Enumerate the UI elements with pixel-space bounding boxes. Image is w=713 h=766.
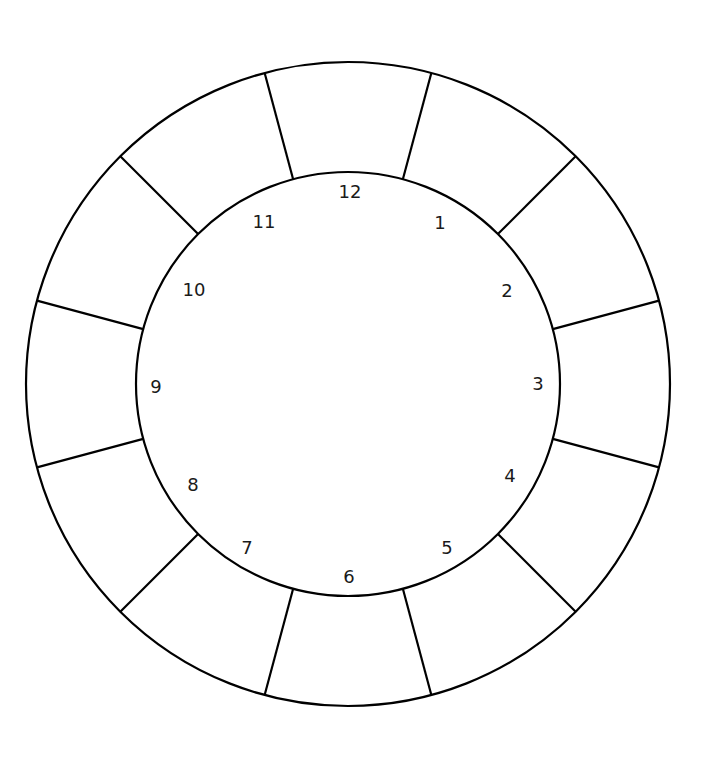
hour-label-10: 10 bbox=[183, 279, 206, 300]
hour-label-6: 6 bbox=[343, 566, 354, 587]
spoke-10-11 bbox=[120, 156, 198, 234]
spoke-12-1 bbox=[403, 73, 431, 179]
spoke-7-8 bbox=[120, 534, 198, 612]
spoke-8-9 bbox=[37, 439, 143, 467]
hour-label-7: 7 bbox=[241, 537, 252, 558]
spoke-5-6 bbox=[403, 589, 431, 695]
inner-circle bbox=[136, 172, 560, 596]
hour-label-9: 9 bbox=[150, 376, 161, 397]
clock-wheel-svg: 121234567891011 bbox=[0, 0, 713, 766]
spoke-6-7 bbox=[265, 589, 293, 695]
hour-label-4: 4 bbox=[504, 465, 515, 486]
spoke-1-2 bbox=[498, 156, 576, 234]
clock-wheel-diagram: 121234567891011 bbox=[0, 0, 713, 766]
hour-label-2: 2 bbox=[501, 280, 512, 301]
spoke-11-12 bbox=[265, 73, 293, 179]
spoke-3-4 bbox=[553, 439, 659, 467]
spoke-4-5 bbox=[498, 534, 576, 612]
hour-label-1: 1 bbox=[434, 212, 445, 233]
hour-label-3: 3 bbox=[532, 373, 543, 394]
hour-label-12: 12 bbox=[339, 181, 362, 202]
spoke-2-3 bbox=[553, 301, 659, 329]
hour-label-11: 11 bbox=[253, 211, 276, 232]
spoke-9-10 bbox=[37, 301, 143, 329]
hour-label-8: 8 bbox=[187, 474, 198, 495]
hour-label-5: 5 bbox=[441, 537, 452, 558]
